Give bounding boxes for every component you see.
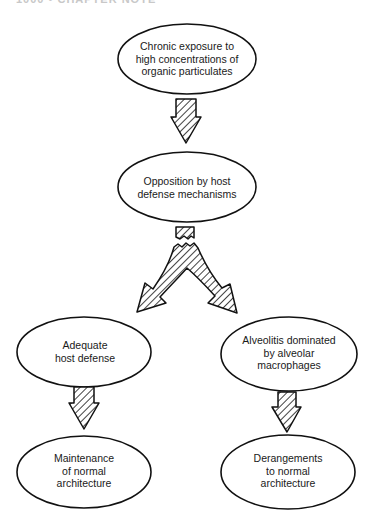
label-line: architecture: [254, 477, 323, 490]
flow-diagram: [0, 0, 370, 522]
label-line: defense mechanisms: [137, 187, 236, 200]
down-arrow-icon: [69, 387, 99, 429]
down-arrow-icon: [272, 392, 301, 432]
label-line: of normal: [54, 465, 114, 478]
label-line: organic particulates: [136, 65, 239, 78]
label-line: by alveolar: [242, 347, 335, 360]
label-line: high concentrations of: [136, 53, 239, 66]
label-line: macrophages: [242, 359, 335, 372]
node-opposition-label: Opposition by host defense mechanisms: [137, 175, 236, 200]
down-arrow-icon: [171, 99, 201, 143]
label-line: architecture: [54, 477, 114, 490]
split-arrow-icon: [137, 227, 237, 313]
label-line: Derangements: [254, 452, 323, 465]
label-line: Alveolitis dominated: [242, 334, 335, 347]
label-line: Maintenance: [54, 452, 114, 465]
label-line: to normal: [254, 465, 323, 478]
node-derangements-label: Derangements to normal architecture: [254, 452, 323, 490]
node-alveolitis-label: Alveolitis dominated by alveolar macroph…: [242, 334, 335, 372]
node-maintenance-label: Maintenance of normal architecture: [54, 452, 114, 490]
label-line: Opposition by host: [137, 175, 236, 188]
node-exposure-label: Chronic exposure to high concentrations …: [136, 40, 239, 78]
node-adequate-label: Adequate host defense: [55, 339, 115, 364]
label-line: host defense: [55, 351, 115, 364]
label-line: Adequate: [55, 339, 115, 352]
label-line: Chronic exposure to: [136, 40, 239, 53]
